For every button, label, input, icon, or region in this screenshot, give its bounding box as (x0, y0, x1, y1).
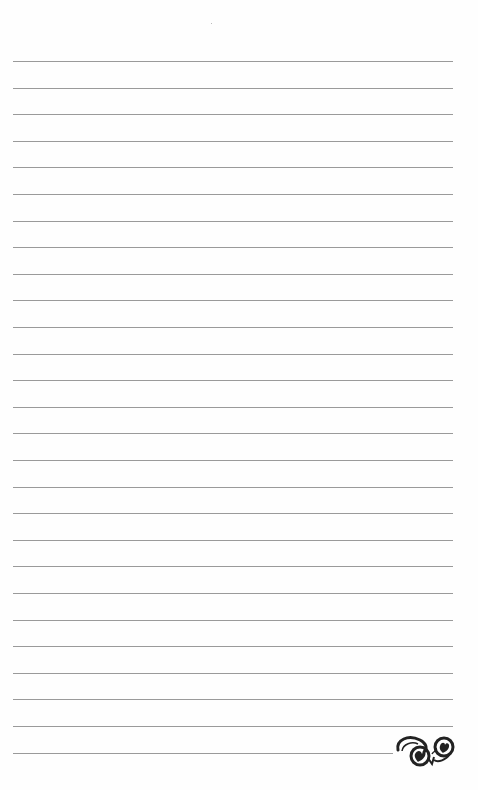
ruled-line (13, 327, 453, 328)
ruled-line (13, 620, 453, 621)
ruled-line (13, 274, 453, 275)
page-speck (211, 23, 212, 24)
notebook-page (0, 0, 478, 790)
ruled-line (13, 487, 453, 488)
ruled-line (13, 646, 453, 647)
ruled-line (13, 300, 453, 301)
ruled-line (13, 699, 453, 700)
ruled-line (13, 407, 453, 408)
ruled-line (13, 460, 453, 461)
ruled-line (13, 380, 453, 381)
ruled-line (13, 433, 453, 434)
flourish-icon (394, 730, 456, 770)
ruled-line (13, 141, 453, 142)
ruled-line (13, 194, 453, 195)
ruled-line (13, 513, 453, 514)
ruled-line (13, 593, 453, 594)
ruled-line (13, 726, 453, 727)
ruled-line (13, 566, 453, 567)
ruled-line (13, 114, 453, 115)
ruled-line (13, 167, 453, 168)
ruled-line (13, 673, 453, 674)
ruled-line (13, 88, 453, 89)
ruled-line (13, 540, 453, 541)
ruled-line (13, 354, 453, 355)
ruled-line (13, 61, 453, 62)
ruled-line (13, 247, 453, 248)
ruled-line (13, 753, 393, 754)
ruled-line (13, 221, 453, 222)
